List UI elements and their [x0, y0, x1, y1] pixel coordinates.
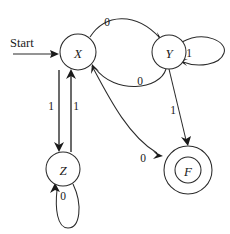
edge-x-to-y [90, 19, 163, 42]
start-label: Start [10, 36, 34, 50]
state-node-f[interactable]: F [164, 146, 212, 194]
edge-x-to-y-path [90, 19, 160, 38]
state-x-label: X [73, 46, 83, 61]
start-arrow [13, 50, 59, 58]
edge-x-to-z [54, 70, 64, 152]
state-node-y[interactable]: Y [152, 35, 186, 69]
edge-label-x-to-y: 0 [104, 16, 110, 28]
edge-label-y-self: 1 [186, 47, 192, 59]
state-node-x[interactable]: X [60, 34, 96, 70]
edge-label-z-self: 0 [60, 190, 66, 202]
edge-x-to-f [92, 66, 163, 159]
edge-label-x-to-f: 0 [140, 152, 146, 164]
state-node-z[interactable]: Z [46, 152, 80, 186]
state-f-label: F [183, 164, 193, 179]
state-machine-diagram: Start 0 0 1 1 1 [0, 0, 230, 234]
diagram-canvas: Start 0 0 1 1 1 [0, 0, 230, 234]
edge-y-to-x [91, 64, 166, 87]
edge-y-to-f-arrowhead [181, 136, 191, 146]
edge-x-to-f-path [92, 66, 157, 153]
edge-label-y-to-x: 0 [137, 75, 143, 87]
edge-label-z-to-x: 1 [73, 100, 79, 112]
edge-y-to-x-path [95, 68, 166, 87]
edge-x-to-f-arrowhead [153, 151, 163, 159]
state-z-label: Z [59, 163, 67, 178]
edge-label-y-to-f: 1 [170, 104, 176, 116]
edge-label-x-to-z: 1 [48, 100, 54, 112]
